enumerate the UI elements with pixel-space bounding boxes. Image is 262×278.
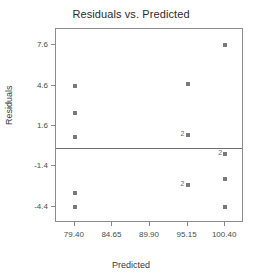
x-tick-mark: [149, 222, 150, 226]
x-tick-label: 84.65: [101, 230, 121, 239]
x-tick-mark: [74, 222, 75, 226]
scatter-point: [186, 133, 190, 137]
x-tick-label: 100.40: [212, 230, 236, 239]
y-tick-label: 7.6: [37, 40, 48, 49]
scatter-point: [223, 43, 227, 47]
x-axis-title: Predicted: [0, 260, 262, 270]
x-tick-mark: [224, 222, 225, 226]
scatter-point: [73, 84, 77, 88]
scatter-point: [73, 135, 77, 139]
scatter-point: [73, 205, 77, 209]
x-tick-label: 95.15: [177, 230, 197, 239]
x-tick-mark: [111, 222, 112, 226]
y-tick-label: -4.4: [34, 201, 48, 210]
scatter-point: [73, 191, 77, 195]
scatter-point: [186, 183, 190, 187]
x-tick-label: 89.90: [139, 230, 159, 239]
scatter-point-count-label: 2: [218, 149, 222, 156]
scatter-point: [186, 82, 190, 86]
x-tick-label: 79.40: [64, 230, 84, 239]
y-tick-label: 4.6: [37, 80, 48, 89]
y-axis-title: Residuals: [4, 85, 14, 125]
scatter-point: [223, 152, 227, 156]
y-tick-label: -1.4: [34, 161, 48, 170]
scatter-point: [73, 111, 77, 115]
chart-title: Residuals vs. Predicted: [0, 8, 262, 20]
x-tick-mark: [187, 222, 188, 226]
scatter-point-count-label: 2: [181, 130, 185, 137]
zero-reference-line: [56, 148, 242, 149]
scatter-point: [223, 205, 227, 209]
plot-area: 222: [55, 28, 243, 222]
residuals-vs-predicted-chart: Residuals vs. Predicted Residuals Predic…: [0, 0, 262, 278]
scatter-point-count-label: 2: [181, 180, 185, 187]
scatter-point: [223, 177, 227, 181]
y-tick-label: 1.6: [37, 121, 48, 130]
